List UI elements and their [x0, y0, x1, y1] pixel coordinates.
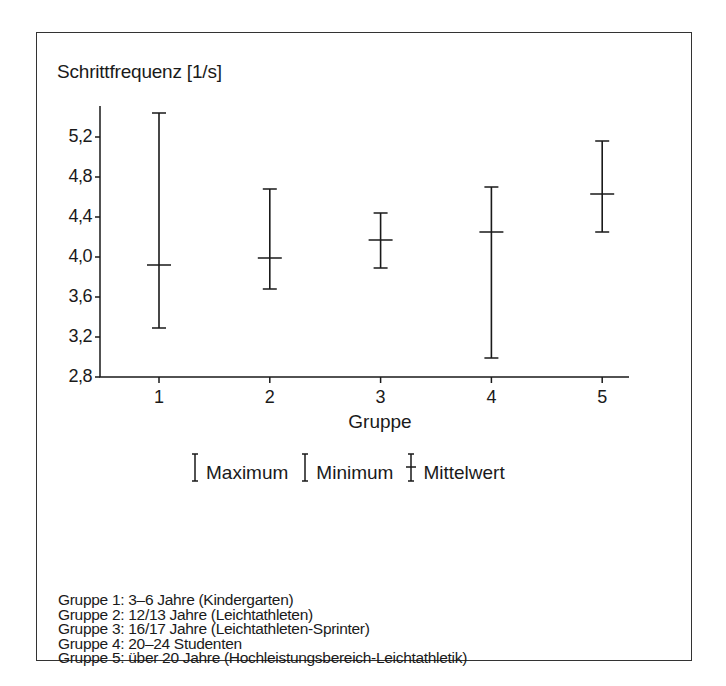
- error-bar-group-1: [147, 113, 171, 328]
- legend-label-mittelwert: Mittelwert: [423, 462, 504, 484]
- x-tick-label: 3: [366, 387, 396, 408]
- x-axis-label: Gruppe: [300, 411, 460, 433]
- min-marker-icon: [300, 452, 310, 482]
- error-bar-group-5: [590, 141, 614, 232]
- error-bar-group-2: [258, 189, 282, 289]
- x-tick-label: 4: [476, 387, 506, 408]
- max-marker-icon: [190, 452, 200, 482]
- plot-area: [0, 0, 726, 686]
- y-tick-label: 4,8: [42, 166, 92, 187]
- error-bar-group-4: [479, 187, 503, 358]
- legend-label-maximum: Maximum: [206, 462, 288, 484]
- axes: [95, 106, 629, 383]
- y-tick-label: 5,2: [42, 126, 92, 147]
- legend-item-maximum: Maximum: [190, 452, 288, 484]
- legend: Maximum Minimum Mittelwert: [190, 444, 517, 484]
- group-descriptions: Gruppe 1: 3–6 Jahre (Kindergarten) Grupp…: [58, 593, 467, 666]
- y-tick-label: 3,2: [42, 326, 92, 347]
- mean-marker-icon: [405, 452, 417, 482]
- x-tick-label: 1: [144, 387, 174, 408]
- y-tick-label: 3,6: [42, 286, 92, 307]
- error-bar-group-3: [369, 213, 393, 268]
- x-tick-label: 2: [255, 387, 285, 408]
- y-tick-label: 2,8: [42, 366, 92, 387]
- legend-label-minimum: Minimum: [316, 462, 393, 484]
- legend-item-mittelwert: Mittelwert: [405, 452, 504, 484]
- legend-item-minimum: Minimum: [300, 452, 393, 484]
- y-tick-label: 4,4: [42, 206, 92, 227]
- axis-lines: [100, 106, 629, 377]
- x-tick-label: 5: [587, 387, 617, 408]
- group-description: Gruppe 5: über 20 Jahre (Hochleistungsbe…: [58, 651, 467, 666]
- y-tick-label: 4,0: [42, 246, 92, 267]
- error-bars: [147, 113, 614, 358]
